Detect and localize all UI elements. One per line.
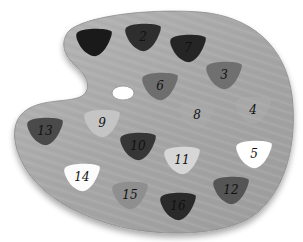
- blob-number-label: 2: [138, 30, 147, 44]
- blob-number-label: 12: [223, 183, 238, 197]
- blob-number-label: 11: [174, 153, 189, 167]
- blob-number-label: 4: [248, 103, 257, 117]
- blob-number-label: 3: [220, 68, 228, 82]
- blob-number-label: 9: [98, 116, 106, 130]
- blob-number-label: 14: [74, 170, 89, 184]
- blob-number-label: 15: [122, 188, 137, 202]
- blob-number-label: 7: [184, 41, 192, 55]
- blob-number-label: 8: [193, 108, 201, 122]
- blob-number-label: 13: [37, 124, 53, 138]
- blob-number-label: 6: [156, 79, 164, 93]
- blob-number-label: 10: [130, 139, 146, 153]
- blob-number-label: 16: [170, 199, 186, 213]
- palette-graphic: 2736849131011514151612: [0, 0, 303, 242]
- palette-illustration: 2736849131011514151612: [0, 0, 303, 242]
- thumb-hole: [112, 86, 134, 100]
- blob-number-label: 5: [250, 147, 258, 161]
